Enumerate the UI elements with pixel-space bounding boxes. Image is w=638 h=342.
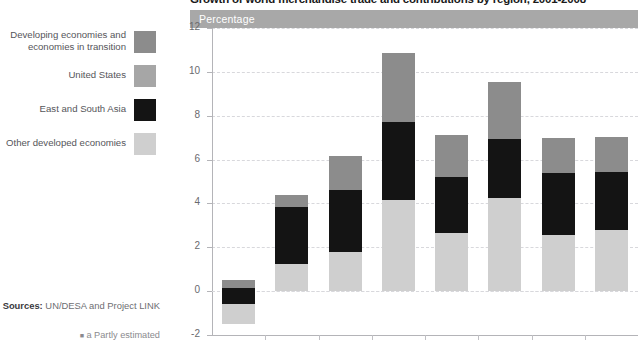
y-axis-tick-label: 2 <box>174 240 200 251</box>
legend-item-label: East and South Asia <box>6 103 126 115</box>
bar-segment-east-south-asia <box>595 172 628 230</box>
legend-item-developing: Developing economies and economies in tr… <box>0 30 160 60</box>
y-axis-tick-label: 10 <box>174 65 200 76</box>
bar-segment-other-developed <box>382 200 415 291</box>
unit-band-label: Percentage <box>199 13 255 25</box>
bar-segment-east-south-asia <box>435 177 468 233</box>
bar-segment-developing <box>382 53 415 122</box>
bar-segment-east-south-asia <box>222 288 255 304</box>
chart-plot-area: -2024681012 <box>190 28 638 338</box>
footnote-note: ■ a Partly estimated <box>0 330 160 342</box>
bar-segment-east-south-asia <box>542 173 575 235</box>
unit-band: Percentage <box>190 10 638 28</box>
bar-segment-east-south-asia <box>329 190 362 251</box>
x-axis-tick <box>265 335 266 340</box>
page-title: Growth of world merchandise trade and co… <box>190 0 630 8</box>
x-axis-tick <box>585 335 586 340</box>
bar-segment-developing <box>595 137 628 172</box>
bar-2001[interactable] <box>222 28 255 338</box>
bar-segment-other-developed <box>435 233 468 291</box>
bar-segment-developing <box>542 138 575 173</box>
legend-item-label: Developing economies and economies in tr… <box>6 29 126 53</box>
sources-label: Sources: <box>3 300 43 311</box>
bar-2002[interactable] <box>275 28 308 338</box>
bar-segment-developing <box>488 82 521 139</box>
bar-segment-other-developed <box>222 304 255 324</box>
bar-2005[interactable] <box>435 28 468 338</box>
bar-segment-other-developed <box>275 264 308 291</box>
x-axis-tick <box>372 335 373 340</box>
y-axis-tick-label: 4 <box>174 196 200 207</box>
bar-segment-developing <box>435 135 468 177</box>
bar-2007[interactable] <box>542 28 575 338</box>
y-axis <box>212 28 213 335</box>
bar-segment-developing <box>222 280 255 288</box>
legend-item-label: United States <box>6 69 126 81</box>
bullet-icon: ■ <box>80 332 84 339</box>
legend-swatch-united-states <box>134 65 156 87</box>
bar-2004[interactable] <box>382 28 415 338</box>
sources-text: UN/DESA and Project LINK <box>45 300 160 311</box>
y-axis-tick-label: 0 <box>174 284 200 295</box>
x-axis-tick <box>478 335 479 340</box>
bar-segment-east-south-asia <box>275 207 308 264</box>
x-axis-tick <box>532 335 533 340</box>
x-axis-tick <box>319 335 320 340</box>
sources-note: Sources: UN/DESA and Project LINK <box>0 300 160 312</box>
bar-2006[interactable] <box>488 28 521 338</box>
legend-swatch-other-developed <box>134 133 156 155</box>
footnote-text: a Partly estimated <box>86 330 160 340</box>
bar-segment-east-south-asia <box>382 122 415 200</box>
bar-2003[interactable] <box>329 28 362 338</box>
legend-item-united-states: United States <box>0 64 160 94</box>
legend-item-east-south-asia: East and South Asia <box>0 98 160 128</box>
x-axis-tick <box>425 335 426 340</box>
bar-segment-other-developed <box>488 198 521 291</box>
legend-item-label: Other developed economies <box>6 137 126 149</box>
bar-segment-other-developed <box>542 235 575 291</box>
bar-segment-developing <box>275 195 308 207</box>
y-axis-tick-label: -2 <box>174 328 200 339</box>
bar-segment-other-developed <box>329 252 362 291</box>
chart-page: Growth of world merchandise trade and co… <box>0 0 638 342</box>
y-axis-tick-label: 8 <box>174 109 200 120</box>
legend-swatch-developing <box>134 31 156 53</box>
bar-segment-developing <box>329 156 362 190</box>
bar-2008[interactable] <box>595 28 628 338</box>
legend-swatch-east-south-asia <box>134 99 156 121</box>
bar-segment-other-developed <box>595 230 628 291</box>
legend: Developing economies and economies in tr… <box>0 30 160 166</box>
y-axis-tick-label: 12 <box>174 21 200 32</box>
y-axis-tick-label: 6 <box>174 153 200 164</box>
bar-segment-east-south-asia <box>488 139 521 198</box>
legend-item-other-developed: Other developed economies <box>0 132 160 162</box>
